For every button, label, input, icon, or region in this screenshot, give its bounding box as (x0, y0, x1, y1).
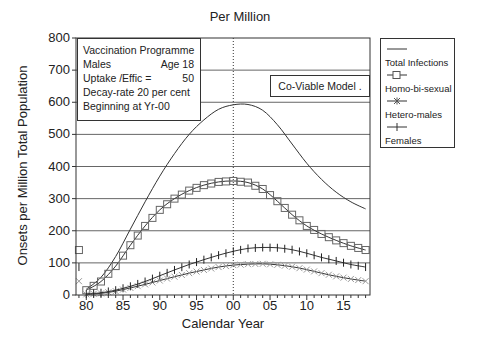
series-homo-bi-sexual (75, 177, 369, 293)
y-tick-label: 400 (36, 159, 70, 174)
chart-title: Per Million (0, 9, 480, 24)
asterisk-marker-icon (385, 95, 409, 107)
series-total-infections (86, 104, 365, 289)
legend: Total Infections Homo-bi-sexual Hetero-m… (380, 38, 455, 148)
square-marker-icon (385, 69, 409, 81)
y-tick-label: 700 (36, 62, 70, 77)
info-line-5: Beginning at Yr-00 (83, 99, 200, 113)
series-layer (75, 104, 369, 298)
y-tick-label: 600 (36, 94, 70, 109)
vaccination-info-box: Vaccination Programme MalesAge 18 Uptake… (77, 38, 201, 121)
y-tick-label: 300 (36, 191, 70, 206)
plus-marker-icon (385, 121, 409, 133)
x-tick-label: 05 (255, 298, 285, 313)
y-tick-label: 100 (36, 255, 70, 270)
x-tick-label: 95 (182, 298, 212, 313)
x-tick-label: 15 (329, 298, 359, 313)
legend-item-total: Total Infections (385, 43, 454, 69)
y-tick-label: 500 (36, 126, 70, 141)
x-tick-label: 90 (145, 298, 175, 313)
legend-item-females: Females (385, 121, 454, 147)
x-tick-label: 85 (108, 298, 138, 313)
x-tick-label: 00 (218, 298, 248, 313)
y-tick-label: 0 (36, 287, 70, 302)
y-tick-label: 200 (36, 223, 70, 238)
info-line-4: Decay-rate 20 per cent (83, 85, 200, 99)
y-tick-label: 800 (36, 30, 70, 45)
line-icon (385, 43, 409, 55)
info-line-3: Uptake /Effic =50 (83, 71, 200, 85)
x-tick-label: 10 (292, 298, 322, 313)
info-line-2: MalesAge 18 (83, 57, 200, 71)
y-axis-label: Onsets per Million Total Population (15, 56, 30, 276)
x-tick-label: 80 (71, 298, 101, 313)
legend-item-hetero: Hetero-males (385, 95, 454, 121)
model-label-box: Co-Viable Model . (270, 75, 370, 97)
info-line-1: Vaccination Programme (83, 43, 200, 57)
legend-item-homo: Homo-bi-sexual (385, 69, 454, 95)
x-axis-label: Calendar Year (76, 316, 370, 331)
series-hetero-males (76, 261, 369, 298)
